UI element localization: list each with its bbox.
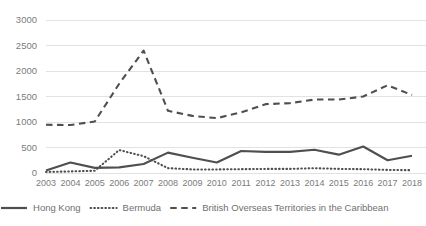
x-tick-label: 2015 (329, 178, 349, 188)
x-tick-label: 2010 (207, 178, 227, 188)
chart-legend: Hong KongBermudaBritish Overseas Territo… (1, 202, 388, 213)
legend-label[interactable]: Hong Kong (33, 202, 81, 213)
y-tick-label: 1000 (16, 116, 37, 127)
y-tick-label: 2500 (16, 40, 37, 51)
x-tick-label: 2018 (402, 178, 422, 188)
x-tick-label: 2006 (109, 178, 129, 188)
x-axis-tick-labels: 2003200420052006200720082009201020112012… (36, 178, 422, 188)
x-tick-label: 2004 (60, 178, 80, 188)
x-tick-label: 2005 (85, 178, 105, 188)
y-tick-label: 500 (21, 142, 37, 153)
x-tick-label: 2007 (134, 178, 154, 188)
x-tick-label: 2003 (36, 178, 56, 188)
x-tick-label: 2011 (232, 178, 251, 188)
legend-label[interactable]: Bermuda (123, 202, 162, 213)
y-tick-label: 0 (32, 167, 37, 178)
x-tick-label: 2014 (304, 178, 324, 188)
y-tick-label: 1500 (16, 91, 37, 102)
series-line-dashed (46, 51, 412, 125)
x-tick-label: 2016 (353, 178, 373, 188)
x-tick-label: 2013 (280, 178, 300, 188)
y-axis-tick-labels: 050010001500200025003000 (16, 14, 37, 178)
legend-label[interactable]: British Overseas Territories in the Cari… (202, 202, 388, 213)
x-tick-label: 2008 (158, 178, 178, 188)
y-tick-label: 2000 (16, 65, 37, 76)
chart-canvas: 050010001500200025003000 200320042005200… (0, 0, 426, 226)
line-chart: 050010001500200025003000 200320042005200… (0, 0, 426, 226)
y-tick-label: 3000 (16, 14, 37, 25)
x-tick-label: 2017 (378, 178, 398, 188)
x-tick-label: 2012 (256, 178, 276, 188)
data-series-group (46, 51, 412, 172)
x-tick-label: 2009 (182, 178, 202, 188)
